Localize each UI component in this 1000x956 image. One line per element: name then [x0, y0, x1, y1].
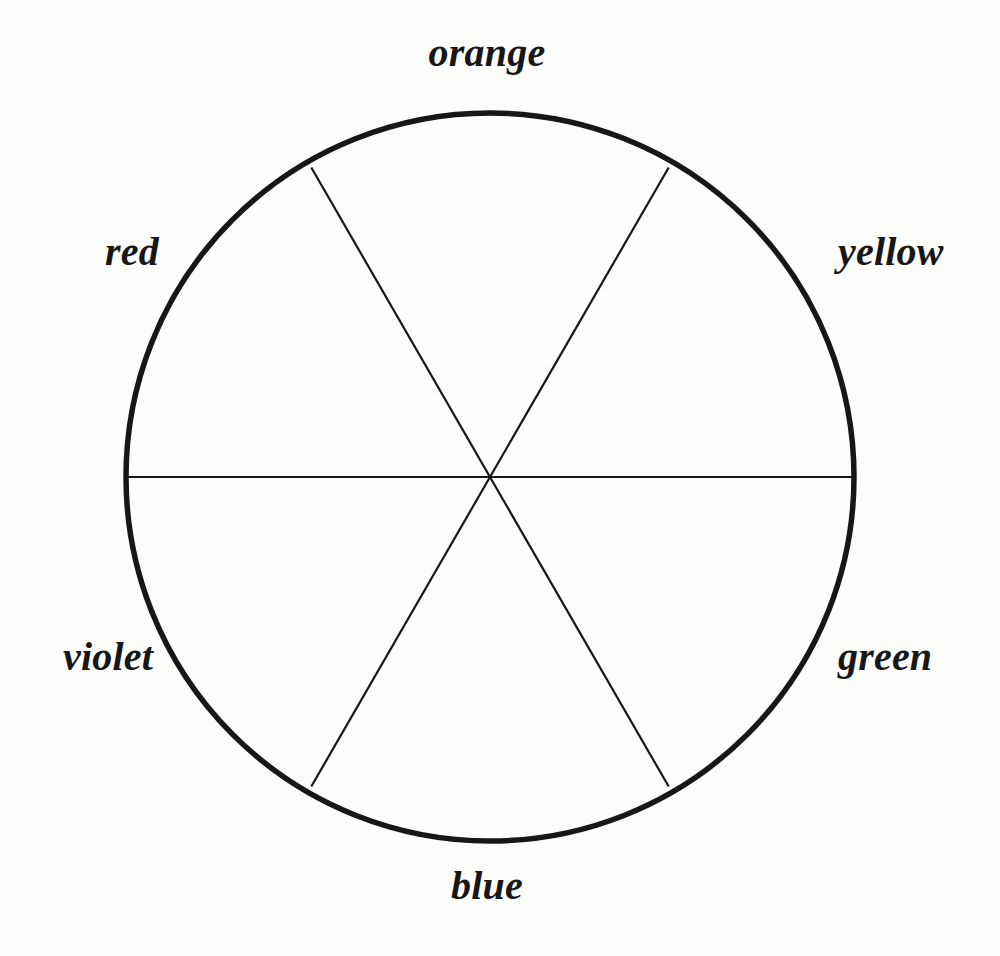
- color-wheel-figure: orange yellow green blue violet red: [0, 0, 1000, 956]
- sector-label-orange: orange: [429, 33, 546, 73]
- sector-label-blue: blue: [451, 866, 523, 906]
- sector-label-green: green: [838, 637, 932, 677]
- sector-label-red: red: [105, 232, 159, 272]
- sector-label-violet: violet: [63, 637, 153, 677]
- sector-divider-group: [126, 168, 854, 787]
- color-wheel-graphic: [0, 0, 1000, 956]
- sector-label-yellow: yellow: [838, 232, 944, 272]
